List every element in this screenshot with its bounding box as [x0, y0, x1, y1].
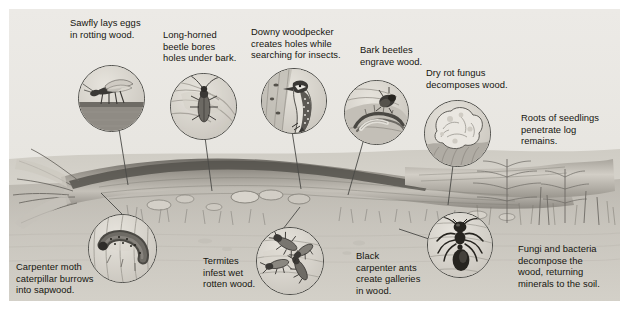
- long-horned-beetle-illustration: [171, 74, 236, 139]
- illustration-panel: Sawfly lays eggs in rotting wood. Long-h…: [9, 9, 620, 301]
- label-carpenter-moth: Carpenter moth caterpillar burrows into …: [16, 261, 124, 296]
- figure-decomposing-log: Sawfly lays eggs in rotting wood. Long-h…: [0, 0, 627, 324]
- label-long-horned-beetle: Long-horned beetle bores holes under bar…: [163, 29, 251, 64]
- label-roots-of-seedlings: Roots of seedlings penetrate log remains…: [521, 112, 620, 147]
- label-downy-woodpecker: Downy woodpecker creates holes while sea…: [251, 26, 363, 61]
- label-termites: Termites infest wet rotten wood.: [203, 255, 273, 290]
- bark-beetle-galleries-illustration: [345, 81, 408, 144]
- label-sawfly: Sawfly lays eggs in rotting wood.: [70, 17, 174, 40]
- callout-bark-beetles: [344, 80, 409, 145]
- label-black-carpenter-ants: Black carpenter ants create galleries in…: [356, 250, 438, 296]
- label-dry-rot-fungus: Dry rot fungus decomposes wood.: [426, 67, 522, 90]
- callout-sawfly: [78, 65, 145, 132]
- downy-woodpecker-illustration: [262, 69, 326, 133]
- callout-long-horned-beetle: [170, 73, 237, 140]
- sawfly-illustration: [79, 66, 144, 131]
- label-bark-beetles: Bark beetles engrave wood.: [360, 44, 434, 67]
- callout-downy-woodpecker: [261, 68, 327, 134]
- callout-dry-rot-fungus: [424, 100, 491, 167]
- label-fungi-and-bacteria: Fungi and bacteria decompose the wood, r…: [518, 243, 620, 289]
- dry-rot-fungus-illustration: [425, 101, 490, 166]
